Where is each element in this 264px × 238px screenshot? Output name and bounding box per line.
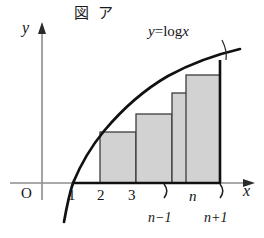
x-axis-label: x xyxy=(243,183,250,199)
x-tick-label-3: 3 xyxy=(128,188,136,203)
brace-mark-n-minus-1 xyxy=(164,184,167,198)
bar-2 xyxy=(136,114,172,183)
bar-group xyxy=(100,75,220,183)
figure-container: 図 ア y=logx y x O 1 2 3 n n−1 n+1 xyxy=(0,0,264,238)
equation-leader-line xyxy=(222,40,226,60)
y-axis-arrow-icon xyxy=(38,22,46,34)
curve-equation-label: y=logx xyxy=(148,24,189,39)
x-tick-label-2: 2 xyxy=(97,188,105,203)
equation-variable: x xyxy=(182,23,189,39)
bar-1 xyxy=(100,132,136,183)
origin-label: O xyxy=(21,186,32,201)
brace-mark-n-plus-1 xyxy=(220,184,223,198)
equation-lhs: y xyxy=(148,23,155,39)
x-tick-label-1: 1 xyxy=(68,188,76,203)
bar-4 xyxy=(186,75,220,183)
y-axis-label: y xyxy=(22,20,29,36)
equation-equals: = xyxy=(155,23,163,39)
x-tick-label-n-minus-1: n−1 xyxy=(148,211,171,225)
equation-log-function: log xyxy=(163,23,182,39)
x-tick-label-n-plus-1: n+1 xyxy=(204,211,227,225)
x-tick-label-n: n xyxy=(189,189,197,204)
y-axis xyxy=(38,22,46,200)
figure-title: 図 ア xyxy=(74,6,115,21)
